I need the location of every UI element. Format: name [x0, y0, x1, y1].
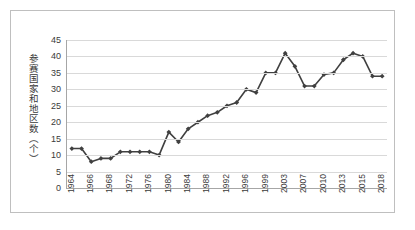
x-axis-tick: 1968: [105, 193, 115, 230]
x-axis-tick-text: 1984: [183, 174, 192, 193]
x-axis-tick-text: 2003: [280, 174, 289, 193]
x-axis-tick-text: 2007: [299, 174, 308, 193]
x-axis-tick-text: 1988: [202, 174, 211, 193]
x-axis-tick: 2018: [376, 193, 386, 230]
x-axis-tick: 2003: [279, 193, 289, 230]
x-axis-tick-text: 1968: [105, 174, 114, 193]
x-axis-tick: 2007: [299, 193, 309, 230]
gridline: [67, 89, 387, 90]
y-axis-tick: 10: [51, 151, 61, 160]
x-axis-tick: 1999: [260, 193, 270, 230]
x-axis-tick-text: 2010: [319, 174, 328, 193]
x-axis-tick-text: 1999: [261, 174, 270, 193]
chart-frame: 参赛国家和地区数（个） 454035302520151050 196419661…: [10, 10, 395, 213]
data-point-marker: [69, 146, 74, 151]
x-axis-tick-text: 1976: [144, 174, 153, 193]
gridline: [67, 155, 387, 156]
gridline: [67, 122, 387, 123]
gridline: [67, 106, 387, 107]
plot-area: [66, 40, 387, 189]
y-axis-tick: 35: [51, 68, 61, 77]
x-axis-tick-text: 2015: [358, 174, 367, 193]
x-axis-tick: 1988: [202, 193, 212, 230]
x-axis-tick: 1976: [143, 193, 153, 230]
y-axis-tick: 40: [51, 52, 61, 61]
x-axis-tick: 1964: [66, 193, 76, 230]
line-series-svg: [67, 40, 387, 188]
gridline: [67, 139, 387, 140]
data-point-marker: [128, 149, 133, 154]
y-axis-tick: 30: [51, 85, 61, 94]
gridline: [67, 40, 387, 41]
x-axis-tick: 1980: [163, 193, 173, 230]
y-axis-tick: 20: [51, 118, 61, 127]
gridline: [67, 56, 387, 57]
y-axis-tick: 25: [51, 101, 61, 110]
x-axis-tick-text: 1992: [222, 174, 231, 193]
x-axis-tick-text: 1966: [86, 174, 95, 193]
x-axis-tick-text: 1964: [67, 174, 76, 193]
y-axis-tick: 15: [51, 134, 61, 143]
y-axis-tick: 5: [56, 167, 61, 176]
x-axis-tick-text: 1996: [241, 174, 250, 193]
x-axis-tick: 1972: [124, 193, 134, 230]
data-point-marker: [137, 149, 142, 154]
x-axis-tick: 2013: [337, 193, 347, 230]
x-axis-tick: 1984: [182, 193, 192, 230]
x-axis-tick-text: 1980: [164, 174, 173, 193]
x-axis-tick: 2015: [357, 193, 367, 230]
y-axis-tick: 0: [56, 184, 61, 193]
x-axis-tick: 1966: [85, 193, 95, 230]
x-axis-tick-labels: 1964196619681972197619801984198819921996…: [66, 191, 386, 230]
y-axis-title: 参赛国家和地区数（个）: [25, 29, 41, 189]
x-axis-tick-text: 2018: [377, 174, 386, 193]
y-axis-tick-labels: 454035302520151050: [41, 35, 63, 189]
data-point-marker: [380, 74, 385, 79]
gridline: [67, 172, 387, 173]
gridline: [67, 73, 387, 74]
x-axis-tick: 1996: [240, 193, 250, 230]
data-point-marker: [147, 149, 152, 154]
x-axis-tick-text: 2013: [338, 174, 347, 193]
x-axis-tick-text: 1972: [125, 174, 134, 193]
x-axis-tick: 2010: [318, 193, 328, 230]
y-axis-tick: 45: [51, 36, 61, 45]
x-axis-tick: 1992: [221, 193, 231, 230]
data-point-marker: [99, 156, 104, 161]
